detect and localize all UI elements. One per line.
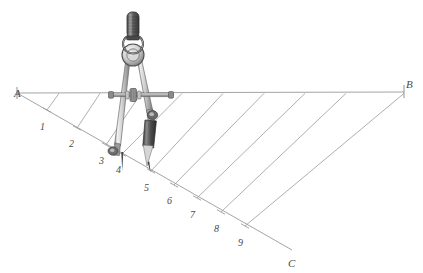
point-label-c: C <box>288 258 295 269</box>
compass-handle <box>127 12 140 40</box>
division-label-5: 5 <box>144 183 149 193</box>
compass-left-leg <box>108 55 131 171</box>
point-label-a: A <box>14 88 21 99</box>
compass-hinge <box>122 44 144 66</box>
division-label-6: 6 <box>167 196 172 206</box>
pencil-lead-holder <box>143 120 157 173</box>
left-leg-screw <box>108 147 118 155</box>
compass-adjustment-bar <box>109 89 174 102</box>
compass-instrument <box>0 0 423 273</box>
division-label-8: 8 <box>214 224 219 234</box>
division-label-2: 2 <box>69 139 74 149</box>
compass-right-leg <box>137 55 158 173</box>
point-label-b: B <box>406 79 413 90</box>
pencil-clamp-knob <box>147 111 157 120</box>
figure-canvas: ABC123456789 <box>0 0 423 273</box>
division-label-7: 7 <box>190 210 195 220</box>
division-label-3: 3 <box>99 156 104 166</box>
division-label-4: 4 <box>116 165 121 175</box>
adjustment-wheel <box>130 89 136 102</box>
division-label-9: 9 <box>238 238 243 248</box>
division-label-1: 1 <box>40 122 45 132</box>
